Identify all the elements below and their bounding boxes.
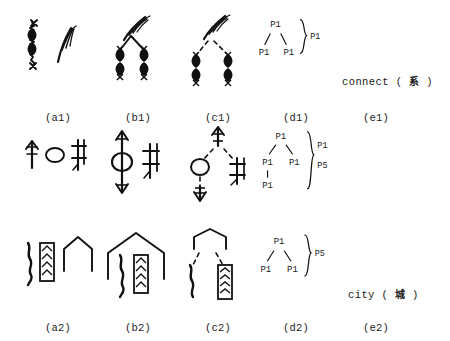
- figure-row-city: P1 P1 P1 P1 P1 P5 city ( 城 ) (a2) (b2) (…: [0, 122, 450, 227]
- gloss-close-paren: ): [426, 76, 433, 88]
- parse-tree-d3: P1 P1 P1 P5: [256, 227, 336, 307]
- brace-icon: [300, 20, 306, 54]
- gloss-connect: connect ( 系 ): [342, 73, 433, 88]
- glyph-c2-art: [178, 122, 258, 202]
- glyph-c1-art: [178, 8, 258, 88]
- tree-node-child-right: P1: [287, 265, 298, 275]
- glyph-b2-art: [98, 122, 178, 202]
- parse-tree-d1-art: P1 P1 P1 P1: [256, 8, 336, 88]
- glyph-a3-art: [18, 227, 98, 307]
- brace-icon: [305, 235, 311, 276]
- brace-label-0: P5: [315, 249, 325, 259]
- tree-node-child-right: P1: [284, 48, 295, 58]
- tree-node-root: P1: [274, 237, 285, 247]
- glyph-b2: [98, 122, 178, 202]
- glyph-a1: [18, 8, 98, 88]
- gloss-open-paren: (: [396, 76, 403, 88]
- gloss-cell-e3: [330, 227, 450, 307]
- tree-node-child-left: P1: [259, 48, 270, 58]
- glyph-b1: [98, 8, 178, 88]
- glyph-c1: [178, 8, 258, 88]
- glyph-a2-art: [18, 122, 98, 202]
- dashed-link-left: [193, 253, 199, 265]
- gloss-english: connect: [342, 76, 389, 88]
- parse-tree-d2-art: P1 P1 P1 P1 P1 P5: [256, 122, 336, 202]
- brace-label-0: P1: [317, 141, 327, 151]
- glyph-c3-art: [178, 227, 258, 307]
- glyph-a1-art: [18, 8, 98, 88]
- glyph-b1-art: [98, 8, 178, 88]
- gloss-cjk: 系: [409, 76, 419, 87]
- glyph-c3: [178, 227, 258, 307]
- dashed-link-left: [203, 149, 213, 160]
- tree-node-root: P1: [270, 20, 281, 30]
- parse-tree-d3-art: P1 P1 P1 P5: [256, 227, 336, 307]
- figure-row-connect: P1 P1 P1 P1 connect ( 系 ) (a1) (b1) (c1)…: [0, 8, 450, 120]
- tree-node-root: P1: [276, 132, 287, 142]
- glyph-a2: [18, 122, 98, 202]
- brace-icon: [308, 132, 314, 189]
- brace-label-1: P5: [317, 161, 327, 171]
- tree-node-grandchild: P1: [262, 181, 273, 191]
- dashed-link-right: [216, 253, 223, 265]
- tree-node-child-left: P1: [262, 158, 273, 168]
- parse-tree-d1: P1 P1 P1 P1: [256, 8, 336, 88]
- glyph-b3-art: [98, 227, 178, 307]
- glyph-c2: [178, 122, 258, 202]
- oracle-bone-script-figure: P1 P1 P1 P1 connect ( 系 ) (a1) (b1) (c1)…: [0, 0, 450, 341]
- glyph-b3: [98, 227, 178, 307]
- tree-node-child-right: P1: [289, 158, 300, 168]
- glyph-a3: [18, 227, 98, 307]
- figure-row-lodge: P1 P1 P1 P5 lodge ( 宿 ) (a3) (b3) (c3) (…: [0, 227, 450, 337]
- gloss-cell-e2: [330, 122, 450, 202]
- parse-tree-d2: P1 P1 P1 P1 P1 P5: [256, 122, 336, 202]
- dashed-link-right: [224, 149, 234, 160]
- tree-node-child-left: P1: [260, 265, 271, 275]
- brace-label-0: P1: [310, 32, 320, 42]
